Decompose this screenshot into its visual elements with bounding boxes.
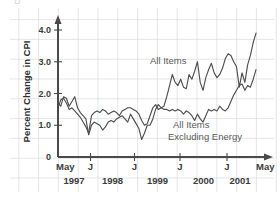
y-tick-label: 2.0 xyxy=(38,89,51,99)
y-tick-label: 0 xyxy=(46,152,51,162)
x-year-label: 1999 xyxy=(147,175,168,186)
x-tick-label: J xyxy=(224,161,229,172)
x-tick-label: May xyxy=(56,161,75,172)
annotation-excluding-energy-line1: All Items xyxy=(173,119,210,130)
x-tick-label: J xyxy=(177,161,182,172)
y-tick-label: 1.0 xyxy=(38,120,51,130)
chart-canvas: 4.03.02.01.00Percent Change in CPIMayJJJ… xyxy=(0,0,280,199)
grid-layer xyxy=(10,8,276,192)
series-line-all-items xyxy=(58,33,256,139)
x-year-label: 2000 xyxy=(193,175,214,186)
annotation-excluding-energy-line2: Excluding Energy xyxy=(168,131,242,142)
x-tick-label: May xyxy=(256,161,275,172)
x-year-label: 1997 xyxy=(63,175,84,186)
x-year-label: 2001 xyxy=(229,175,251,186)
x-year-label: 1998 xyxy=(102,175,123,186)
x-tick-label: J xyxy=(132,161,137,172)
cpi-chart-figure: D 4.03.02.01.00Percent Change in CPIMayJ… xyxy=(0,0,280,199)
annotation-all-items: All Items xyxy=(150,55,187,66)
series-layer xyxy=(58,33,256,139)
y-tick-label: 4.0 xyxy=(38,25,51,35)
y-tick-label: 3.0 xyxy=(38,57,51,67)
x-tick-label: J xyxy=(88,161,93,172)
y-axis-title: Percent Change in CPI xyxy=(21,41,32,143)
